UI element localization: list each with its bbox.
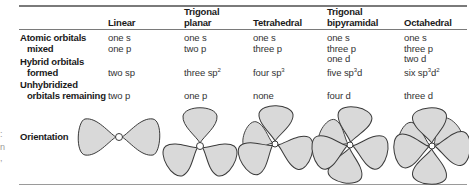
trigonal-bipyramidal-orbital-diagram — [350, 145, 351, 146]
cell-trigonal-bipyramidal-mixed-3: one d — [327, 53, 350, 64]
cell-trigonal-bipyramidal-remaining: four d — [327, 90, 351, 101]
row-label-orientation: Orientation — [20, 131, 68, 142]
column-header-trigonal-bipyramidal-line2: bipyramidal — [327, 17, 378, 28]
octahedral-orbital-diagram — [432, 146, 433, 147]
row-label-mixed: mixed — [27, 43, 53, 54]
edge-fragment: n — [0, 142, 5, 152]
cell-trigonal-planar-mixed-1: one s — [184, 32, 207, 43]
cell-linear-mixed-2: one p — [108, 43, 131, 54]
linear-orbital-diagram — [119, 137, 120, 138]
cell-trigonal-planar-mixed-2: two p — [184, 43, 206, 54]
column-header-trigonal-planar-line2: planar — [184, 17, 211, 28]
column-header-linear: Linear — [108, 17, 135, 28]
row-label-formed: formed — [27, 67, 58, 78]
edge-fragment: , — [0, 153, 3, 163]
column-header-tetrahedral: Tetrahedral — [253, 17, 302, 28]
row-label-orbitals-remaining: orbitals remaining — [27, 90, 106, 101]
cell-tetrahedral-mixed-1: one s — [253, 32, 276, 43]
cell-octahedral-mixed-3: two d — [404, 53, 426, 64]
cell-linear-formed: two sp — [108, 67, 135, 78]
cell-trigonal-planar-formed: three sp2 — [184, 67, 221, 78]
column-header-octahedral: Octahedral — [404, 17, 452, 28]
cell-tetrahedral-formed: four sp3 — [253, 67, 285, 78]
cell-linear-remaining: two p — [108, 90, 130, 101]
edge-fragment: : — [0, 129, 3, 139]
tetrahedral-orbital-diagram — [275, 144, 276, 145]
cell-trigonal-bipyramidal-formed: five sp3d — [327, 67, 362, 78]
table-top-rule — [19, 5, 467, 7]
cell-tetrahedral-remaining: none — [253, 90, 274, 101]
row-label-unhybridized: Unhybridized — [20, 79, 78, 90]
trigonal-planar-orbital-diagram — [200, 146, 201, 147]
column-header-trigonal-planar-line1: Trigonal — [184, 6, 219, 17]
table-bottom-rule — [19, 184, 467, 185]
cell-octahedral-formed: six sp3d2 — [404, 67, 439, 78]
cell-octahedral-mixed-1: one s — [404, 32, 427, 43]
cell-octahedral-remaining: three d — [404, 90, 433, 101]
column-header-trigonal-bipyramidal-line1: Trigonal — [327, 6, 362, 17]
cell-linear-mixed-1: one s — [108, 32, 131, 43]
row-label-hybrid-orbitals: Hybrid orbitals — [20, 56, 84, 67]
cell-trigonal-bipyramidal-mixed-1: one s — [327, 32, 350, 43]
cell-trigonal-planar-remaining: one p — [184, 90, 207, 101]
cell-tetrahedral-mixed-2: three p — [253, 43, 282, 54]
row-label-atomic-orbitals: Atomic orbitals — [20, 32, 86, 43]
table-header-rule — [19, 29, 467, 30]
